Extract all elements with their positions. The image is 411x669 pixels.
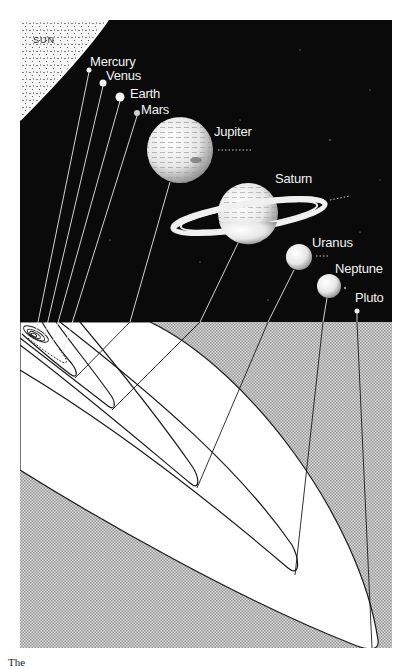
label-mercury: Mercury [90,55,136,68]
label-saturn: Saturn [275,172,312,185]
planet-uranus [286,244,312,270]
label-pluto: Pluto [355,291,384,304]
orbit-plane [20,322,392,649]
diagram-canvas [0,0,411,669]
label-earth: Earth [130,87,160,100]
label-jupiter: Jupiter [214,125,252,138]
planet-earth [116,93,125,102]
label-venus: Venus [106,69,141,82]
label-mars: Mars [141,103,169,116]
planet-jupiter [147,117,213,183]
solar-system-diagram: SUN Mercury Venus Earth Mars Jupiter Sat… [0,0,411,669]
label-neptune: Neptune [335,262,383,275]
neptune-moon [344,287,346,289]
figure-caption: The [8,656,25,668]
planet-neptune [317,274,341,298]
planet-pluto [355,309,360,314]
planet-mars [134,110,140,116]
label-uranus: Uranus [312,236,353,249]
sun-label: SUN [33,35,55,45]
